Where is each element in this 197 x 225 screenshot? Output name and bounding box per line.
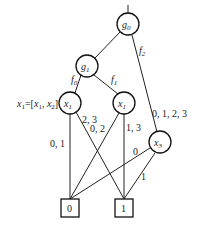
label-x3-t0: 0 bbox=[133, 146, 138, 157]
node-g1: g1 bbox=[76, 55, 98, 77]
node-x1-left: x1 bbox=[59, 92, 81, 114]
label-x3-in: 0, 1, 2, 3 bbox=[152, 108, 187, 119]
terminal-1: 1 bbox=[115, 199, 133, 217]
edge-x3-t0 bbox=[70, 148, 150, 199]
decision-diagram: g0 g1 x1 x1 x3 0 1 f2 f0 f1 0, 1, 2, 3 2… bbox=[0, 0, 197, 225]
node-x3: x3 bbox=[149, 131, 171, 153]
edge-x3-t1 bbox=[124, 153, 155, 199]
label-x1b-t0: 0, 2 bbox=[90, 123, 105, 134]
terminal-0: 0 bbox=[61, 199, 79, 217]
label-f1: f1 bbox=[111, 74, 117, 87]
node-g0: g0 bbox=[117, 13, 139, 35]
edge-g0-g1 bbox=[95, 32, 120, 58]
node-x1-right: x1 bbox=[113, 92, 135, 114]
label-x1b-t1: 1, 3 bbox=[126, 122, 141, 133]
label-x1a-t0: 0, 1 bbox=[50, 138, 65, 149]
annotation-x1-def: x1=[x1, x2] bbox=[16, 98, 58, 111]
svg-text:1: 1 bbox=[121, 203, 126, 214]
label-f0: f0 bbox=[71, 74, 78, 87]
label-f2: f2 bbox=[139, 45, 146, 58]
svg-text:0: 0 bbox=[67, 203, 72, 214]
label-x3-t1: 1 bbox=[141, 171, 146, 182]
